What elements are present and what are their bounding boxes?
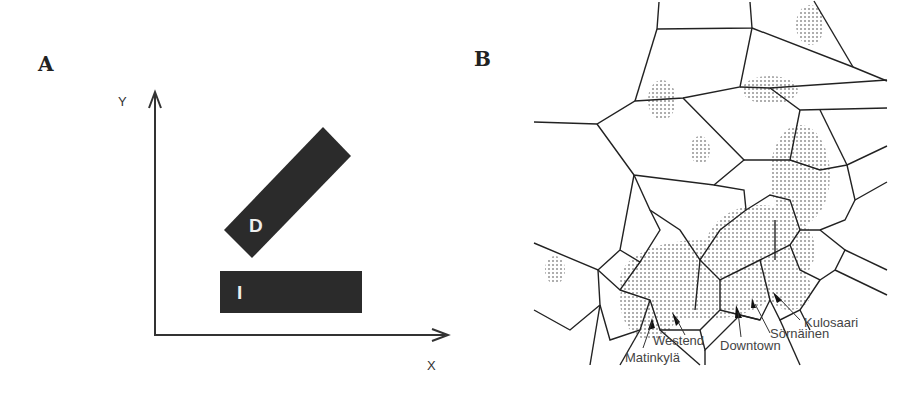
urban-density-dots	[545, 5, 830, 340]
label-westend: Westend	[653, 333, 704, 348]
figure-canvas: Y X D I	[0, 0, 920, 394]
shape-i-label: I	[237, 282, 242, 303]
panel-a: Y X D I	[118, 92, 448, 373]
y-axis-label: Y	[118, 94, 127, 109]
label-downtown: Downtown	[720, 338, 781, 353]
label-matinkyla: Matinkylä	[625, 350, 681, 365]
panel-b-map: Kulosaari Sörnäinen Downtown Westend Mat…	[534, 1, 887, 365]
x-axis-label: X	[427, 358, 436, 373]
shape-d-label: D	[249, 215, 263, 236]
shape-d	[224, 127, 351, 258]
